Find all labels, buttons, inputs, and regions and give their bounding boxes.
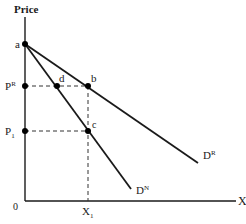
demand-curve-dr: [25, 44, 198, 163]
label-d: d: [59, 72, 65, 84]
label-b: b: [91, 72, 97, 84]
demand-curve-dn: [25, 44, 131, 189]
x-axis-label: X: [238, 194, 246, 208]
label-pr: PR: [5, 80, 16, 92]
point-a: [22, 41, 28, 47]
label-c: c: [92, 119, 97, 130]
label-p1: P1: [5, 125, 15, 140]
label-x1: X1: [82, 205, 94, 220]
origin-label: 0: [13, 201, 18, 212]
label-dn: DN: [136, 184, 149, 196]
y-axis-label: Price: [14, 3, 39, 15]
label-a: a: [15, 38, 20, 50]
demand-diagram: Price X 0 a d b c PR P1 X1 DR DN: [0, 0, 246, 224]
label-dr: DR: [203, 149, 216, 161]
point-p1-axis: [22, 128, 28, 134]
point-pr-axis: [22, 83, 28, 89]
point-c: [85, 128, 91, 134]
